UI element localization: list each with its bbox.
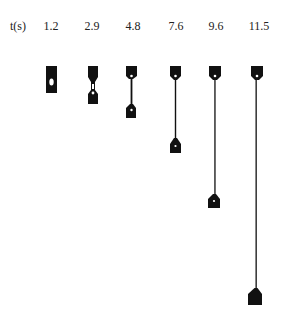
specimen-2 bbox=[88, 66, 98, 104]
specimen-3 bbox=[126, 66, 137, 118]
specimen-4 bbox=[170, 66, 181, 153]
specimen-5 bbox=[208, 66, 221, 208]
specimen-sequence bbox=[0, 0, 282, 317]
specimen-1 bbox=[46, 66, 57, 93]
specimen-6 bbox=[248, 66, 263, 305]
